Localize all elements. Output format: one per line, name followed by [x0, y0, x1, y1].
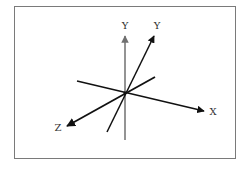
y-vertical-label: Y: [121, 20, 129, 31]
coordinate-axes-diagram: Y Y X Z: [0, 0, 244, 169]
z-axis-label: Z: [55, 122, 62, 133]
y-axis-tilted: [107, 36, 154, 132]
y-tilted-label: Y: [153, 20, 161, 31]
origin-point: [123, 91, 126, 94]
x-axis-label: X: [209, 106, 217, 117]
z-axis: [67, 77, 155, 126]
